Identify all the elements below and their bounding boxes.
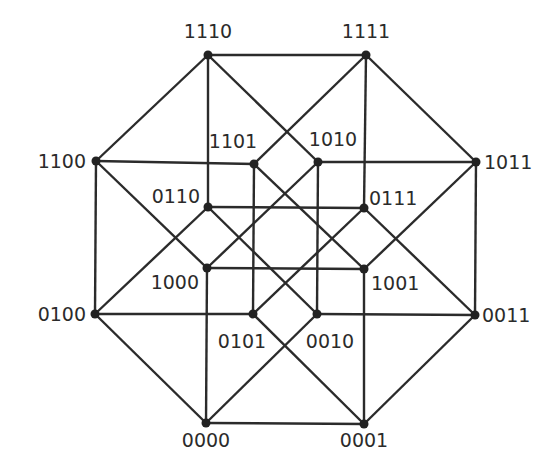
node-label-1100: 1100: [38, 150, 86, 172]
edge-0000-1000: [206, 268, 207, 423]
edge-1000-1010: [207, 162, 318, 268]
node-0101: [249, 310, 258, 319]
edge-0001-0011: [364, 315, 475, 424]
node-label-1011: 1011: [484, 151, 532, 173]
node-label-0010: 0010: [306, 330, 354, 352]
node-0011: [471, 311, 480, 320]
edge-1000-1100: [96, 161, 207, 268]
node-1101: [250, 160, 259, 169]
node-label-1010: 1010: [309, 128, 357, 150]
node-1110: [204, 51, 213, 60]
node-label-0011: 0011: [482, 304, 530, 326]
node-label-0101: 0101: [218, 330, 266, 352]
edge-1011-1111: [366, 55, 476, 162]
edge-0111-1111: [364, 55, 366, 208]
node-1010: [314, 158, 323, 167]
edge-1100-1101: [96, 161, 254, 164]
edge-0101-1101: [253, 164, 254, 314]
node-0001: [360, 420, 369, 429]
edge-1000-1001: [207, 268, 364, 269]
node-0111: [360, 204, 369, 213]
node-label-0001: 0001: [340, 429, 388, 451]
node-label-1111: 1111: [342, 20, 390, 42]
node-1011: [472, 158, 481, 167]
node-1000: [203, 264, 212, 273]
node-label-1000: 1000: [151, 271, 199, 293]
node-1111: [362, 51, 371, 60]
node-1001: [360, 265, 369, 274]
edge-1100-1110: [96, 55, 208, 161]
node-1100: [92, 157, 101, 166]
node-label-1110: 1110: [184, 20, 232, 42]
edge-0000-0100: [95, 314, 206, 423]
edge-0000-0001: [206, 423, 364, 424]
hypercube-diagram: 1110111111001011110110100110011110001001…: [0, 0, 556, 475]
node-label-0000: 0000: [182, 429, 230, 451]
node-label-0111: 0111: [369, 187, 417, 209]
edge-0110-0111: [208, 207, 364, 208]
node-label-1001: 1001: [371, 272, 419, 294]
edge-0010-0110: [208, 207, 317, 314]
node-0010: [313, 310, 322, 319]
edge-0010-0011: [317, 314, 475, 315]
labels-layer: 1110111111001011110110100110011110001001…: [38, 20, 533, 451]
edge-1001-1101: [254, 164, 364, 269]
edge-0011-0111: [364, 208, 475, 315]
node-0110: [204, 203, 213, 212]
node-label-0100: 0100: [38, 303, 86, 325]
edge-0010-1010: [317, 162, 318, 314]
edge-0100-0110: [95, 207, 208, 314]
edge-1001-1011: [364, 162, 476, 269]
node-label-1101: 1101: [209, 130, 257, 152]
node-label-0110: 0110: [152, 185, 200, 207]
edge-0101-0111: [253, 208, 364, 314]
edges-layer: [95, 55, 476, 424]
node-0100: [91, 310, 100, 319]
node-0000: [202, 419, 211, 428]
edge-0011-1011: [475, 162, 476, 315]
edge-0100-1100: [95, 161, 96, 314]
nodes-layer: [91, 51, 481, 429]
